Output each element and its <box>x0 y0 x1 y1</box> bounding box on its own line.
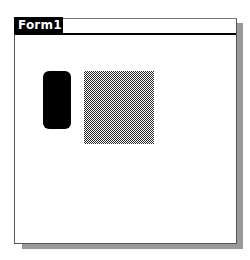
window-title: Form1 <box>14 17 63 34</box>
checkered-square-shape[interactable] <box>84 71 154 144</box>
form-window: Form1 <box>14 18 237 244</box>
window-shadow-right <box>237 23 243 249</box>
black-rounded-rectangle-shape[interactable] <box>43 71 71 129</box>
title-bar[interactable]: Form1 <box>15 19 236 35</box>
form-content <box>15 35 236 243</box>
